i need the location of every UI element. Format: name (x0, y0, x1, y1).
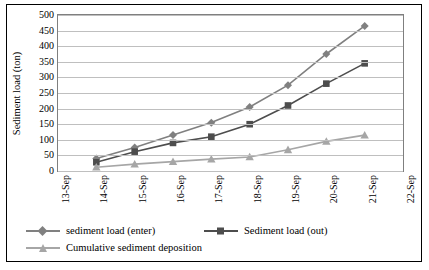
x-tick-label: 22-Sep (406, 175, 416, 203)
x-tick-label: 14-Sep (99, 175, 109, 203)
chart-container: Sediment load (ton) 05010015020025030035… (0, 0, 429, 270)
gridline (58, 155, 403, 156)
legend-row-2: Cumulative sediment deposition (26, 239, 386, 256)
legend-label-2: Cumulative sediment deposition (66, 242, 202, 253)
y-tick-label: 150 (20, 119, 54, 129)
gridline (58, 93, 403, 94)
data-point (207, 119, 215, 127)
x-tick-label: 15-Sep (138, 175, 148, 203)
gridline (58, 109, 403, 110)
gridline (58, 62, 403, 63)
gridline (58, 124, 403, 125)
y-tick-label: 100 (20, 135, 54, 145)
y-tick-label: 300 (20, 72, 54, 82)
legend-swatch-square-icon (204, 230, 238, 232)
x-tick-label: 17-Sep (214, 175, 224, 203)
legend-label-1: Sediment load (out) (244, 225, 327, 236)
y-tick-label: 350 (20, 57, 54, 67)
gridline (58, 15, 403, 16)
plot-area (57, 14, 404, 172)
legend-row-1: sediment load (enter) Sediment load (out… (26, 222, 386, 239)
y-tick-label: 450 (20, 26, 54, 36)
legend-item-sediment-load-out[interactable]: Sediment load (out) (204, 225, 327, 236)
y-tick-label: 250 (20, 88, 54, 98)
y-tick-label: 0 (20, 166, 54, 176)
data-point (360, 131, 368, 139)
data-point (131, 148, 138, 155)
gridline (58, 140, 403, 141)
x-axis-tick-labels: 13-Sep14-Sep15-Sep16-Sep17-Sep18-Sep19-S… (57, 174, 404, 224)
legend-label-0: sediment load (enter) (66, 225, 155, 236)
x-tick-label: 21-Sep (368, 175, 378, 203)
gridline (58, 46, 403, 47)
gridline (58, 171, 403, 172)
y-tick-label: 200 (20, 104, 54, 114)
x-tick-label: 16-Sep (176, 175, 186, 203)
chart-legend: sediment load (enter) Sediment load (out… (26, 222, 386, 256)
legend-swatch-triangle-icon (26, 247, 60, 249)
x-tick-label: 20-Sep (329, 175, 339, 203)
legend-swatch-diamond-icon (26, 230, 60, 232)
y-axis-tick-labels: 050100150200250300350400450500 (16, 14, 54, 172)
data-point (169, 131, 177, 139)
y-tick-label: 500 (20, 10, 54, 20)
data-point (246, 103, 254, 111)
data-point (323, 80, 330, 87)
gridline (58, 77, 403, 78)
y-tick-label: 50 (20, 150, 54, 160)
legend-item-cumulative-sediment-deposition[interactable]: Cumulative sediment deposition (26, 242, 202, 253)
x-tick-label: 18-Sep (253, 175, 263, 203)
x-tick-label: 19-Sep (291, 175, 301, 203)
x-tick-label: 13-Sep (61, 175, 71, 203)
gridline (58, 31, 403, 32)
legend-item-sediment-load-enter[interactable]: sediment load (enter) (26, 225, 204, 236)
y-tick-label: 400 (20, 41, 54, 51)
